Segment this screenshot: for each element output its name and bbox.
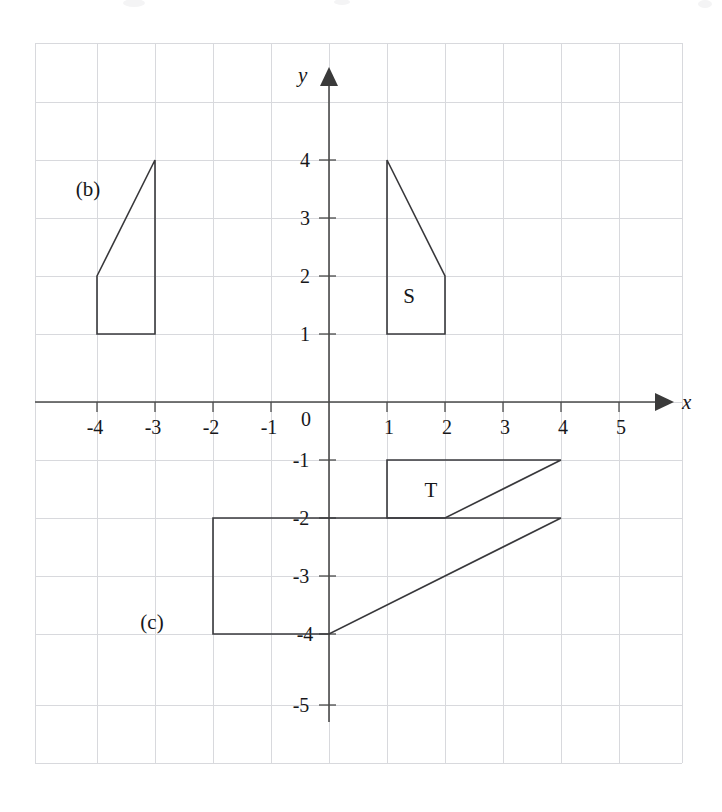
axis-ticks <box>97 160 619 705</box>
shape-c-label: (c) <box>140 610 163 634</box>
x-tick-label: -2 <box>203 416 220 438</box>
x-tick-labels: -4 -3 -2 -1 1 2 3 4 5 <box>87 416 626 438</box>
y-axis-label: y <box>296 63 308 87</box>
x-tick-label: -3 <box>145 416 162 438</box>
y-tick-labels: 4 3 2 1 -1 -2 -3 -4 -5 <box>293 149 314 716</box>
x-tick-label: 5 <box>616 416 626 438</box>
x-tick-label: 4 <box>558 416 568 438</box>
x-tick-label: 2 <box>442 416 452 438</box>
scan-artifacts <box>123 0 712 8</box>
y-tick-label: 3 <box>300 207 310 229</box>
figure-container: x y -4 -3 -2 -1 1 2 3 4 5 0 4 3 2 1 -1 -… <box>0 0 722 812</box>
x-tick-label: -1 <box>261 416 278 438</box>
y-tick-label: -1 <box>293 449 310 471</box>
y-tick-label: 2 <box>300 265 310 287</box>
shape-s-polygon <box>387 160 445 334</box>
y-tick-label: 1 <box>300 323 310 345</box>
x-tick-label: 1 <box>384 416 394 438</box>
y-tick-label: 4 <box>300 149 310 171</box>
shape-t-label: T <box>425 478 438 502</box>
shape-b-label: (b) <box>76 177 101 201</box>
coordinate-grid-figure: x y -4 -3 -2 -1 1 2 3 4 5 0 4 3 2 1 -1 -… <box>0 0 722 812</box>
x-axis-label: x <box>681 390 692 414</box>
x-tick-label: 3 <box>500 416 510 438</box>
shape-s-label: S <box>403 284 415 308</box>
y-tick-label: -3 <box>293 565 310 587</box>
y-axis <box>320 67 338 722</box>
shape-t-polygon <box>387 460 561 518</box>
shape-b-polygon <box>97 160 155 334</box>
grid-lines <box>35 43 682 763</box>
x-tick-label: -4 <box>87 416 104 438</box>
x-axis <box>35 393 674 411</box>
y-tick-label: -5 <box>293 694 310 716</box>
origin-label: 0 <box>301 408 311 430</box>
